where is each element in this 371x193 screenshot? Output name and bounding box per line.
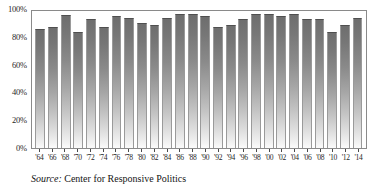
- bar-series: [32, 11, 366, 148]
- x-tick-mark: [230, 149, 231, 152]
- x-tick-mark: [154, 149, 155, 152]
- x-label-slot: '86: [173, 153, 186, 166]
- y-axis: 100% 80% 60% 40% 20% 0%: [0, 0, 29, 193]
- x-label-slot: '04: [288, 153, 301, 166]
- bar[interactable]: [124, 18, 134, 148]
- bar[interactable]: [86, 19, 96, 148]
- x-label-slot: '82: [148, 153, 161, 166]
- bar[interactable]: [35, 29, 45, 148]
- x-tick-mark: [345, 149, 346, 152]
- x-tick-label: '68: [61, 153, 69, 162]
- bar[interactable]: [315, 19, 325, 148]
- bar[interactable]: [264, 14, 274, 148]
- y-tick-label-100: 100%: [8, 5, 27, 14]
- x-tick-mark: [269, 149, 270, 152]
- bar[interactable]: [327, 32, 337, 148]
- x-tick-label: '74: [99, 153, 107, 162]
- x-tick-mark: [307, 149, 308, 152]
- x-tick-label: '78: [125, 153, 133, 162]
- bar-slot: [97, 11, 110, 148]
- x-label-slot: '10: [327, 153, 340, 166]
- x-tick-label: '94: [227, 153, 235, 162]
- x-tick-label: '10: [329, 153, 337, 162]
- bar-slot: [85, 11, 98, 148]
- x-tick-mark: [167, 149, 168, 152]
- x-label-slot: '84: [161, 153, 174, 166]
- x-tick-label: '72: [86, 153, 94, 162]
- bar-chart-figure: 100% 80% 60% 40% 20% 0% '64'66'68'70'72'…: [0, 0, 371, 193]
- x-tick-label: '66: [48, 153, 56, 162]
- bar-slot: [326, 11, 339, 148]
- x-label-slot: '72: [84, 153, 97, 166]
- bar-slot: [72, 11, 85, 148]
- x-tick-label: '90: [201, 153, 209, 162]
- bar-slot: [123, 11, 136, 148]
- x-tick-label: '98: [252, 153, 260, 162]
- x-tick-mark: [320, 149, 321, 152]
- bar[interactable]: [188, 14, 198, 148]
- bar[interactable]: [150, 25, 160, 148]
- x-label-slot: '14: [352, 153, 365, 166]
- x-label-slot: '00: [263, 153, 276, 166]
- x-tick-label: '82: [150, 153, 158, 162]
- x-tick-mark: [141, 149, 142, 152]
- x-tick-mark: [39, 149, 40, 152]
- x-tick-mark: [281, 149, 282, 152]
- y-tick-label-60: 60%: [12, 61, 27, 70]
- bar[interactable]: [112, 16, 122, 148]
- x-tick-mark: [205, 149, 206, 152]
- bar[interactable]: [238, 19, 248, 148]
- x-tick-mark: [332, 149, 333, 152]
- x-tick-label: '96: [240, 153, 248, 162]
- x-label-slot: '02: [276, 153, 289, 166]
- bar-slot: [262, 11, 275, 148]
- bar[interactable]: [48, 27, 58, 148]
- x-label-slot: '80: [135, 153, 148, 166]
- bar-slot: [212, 11, 225, 148]
- bar-slot: [199, 11, 212, 148]
- bar[interactable]: [137, 23, 147, 148]
- bar-slot: [250, 11, 263, 148]
- bar[interactable]: [302, 19, 312, 148]
- bar[interactable]: [162, 18, 172, 148]
- x-tick-mark: [243, 149, 244, 152]
- bar[interactable]: [276, 16, 286, 148]
- bar[interactable]: [99, 27, 109, 148]
- x-label-slot: '76: [110, 153, 123, 166]
- bar[interactable]: [175, 14, 185, 148]
- bar-slot: [161, 11, 174, 148]
- x-tick-label: '64: [35, 153, 43, 162]
- x-tick-label: '14: [354, 153, 362, 162]
- y-tick-label-80: 80%: [12, 33, 27, 42]
- x-label-slot: '94: [224, 153, 237, 166]
- x-tick-mark: [64, 149, 65, 152]
- x-tick-label: '04: [291, 153, 299, 162]
- bar[interactable]: [200, 16, 210, 148]
- x-label-slot: '08: [314, 153, 327, 166]
- x-tick-mark: [90, 149, 91, 152]
- bar-slot: [237, 11, 250, 148]
- x-tick-label: '08: [316, 153, 324, 162]
- bar-slot: [47, 11, 60, 148]
- x-label-slot: '06: [301, 153, 314, 166]
- bar[interactable]: [213, 27, 223, 148]
- x-tick-mark: [179, 149, 180, 152]
- bar[interactable]: [353, 18, 363, 148]
- bar[interactable]: [289, 14, 299, 148]
- bar[interactable]: [251, 14, 261, 148]
- source-note: Source: Center for Responsive Politics: [31, 173, 186, 185]
- x-label-slot: '70: [71, 153, 84, 166]
- x-axis: '64'66'68'70'72'74'76'78'80'82'84'86'88'…: [31, 153, 367, 166]
- y-tick-label-40: 40%: [12, 88, 27, 97]
- bar[interactable]: [340, 25, 350, 148]
- x-label-slot: '12: [339, 153, 352, 166]
- x-tick-label: '12: [342, 153, 350, 162]
- x-tick-label: '02: [278, 153, 286, 162]
- x-tick-label: '80: [137, 153, 145, 162]
- x-tick-label: '70: [74, 153, 82, 162]
- x-tick-label: '76: [112, 153, 120, 162]
- x-label-slot: '98: [250, 153, 263, 166]
- bar[interactable]: [226, 25, 236, 148]
- bar[interactable]: [73, 32, 83, 148]
- bar[interactable]: [61, 15, 71, 148]
